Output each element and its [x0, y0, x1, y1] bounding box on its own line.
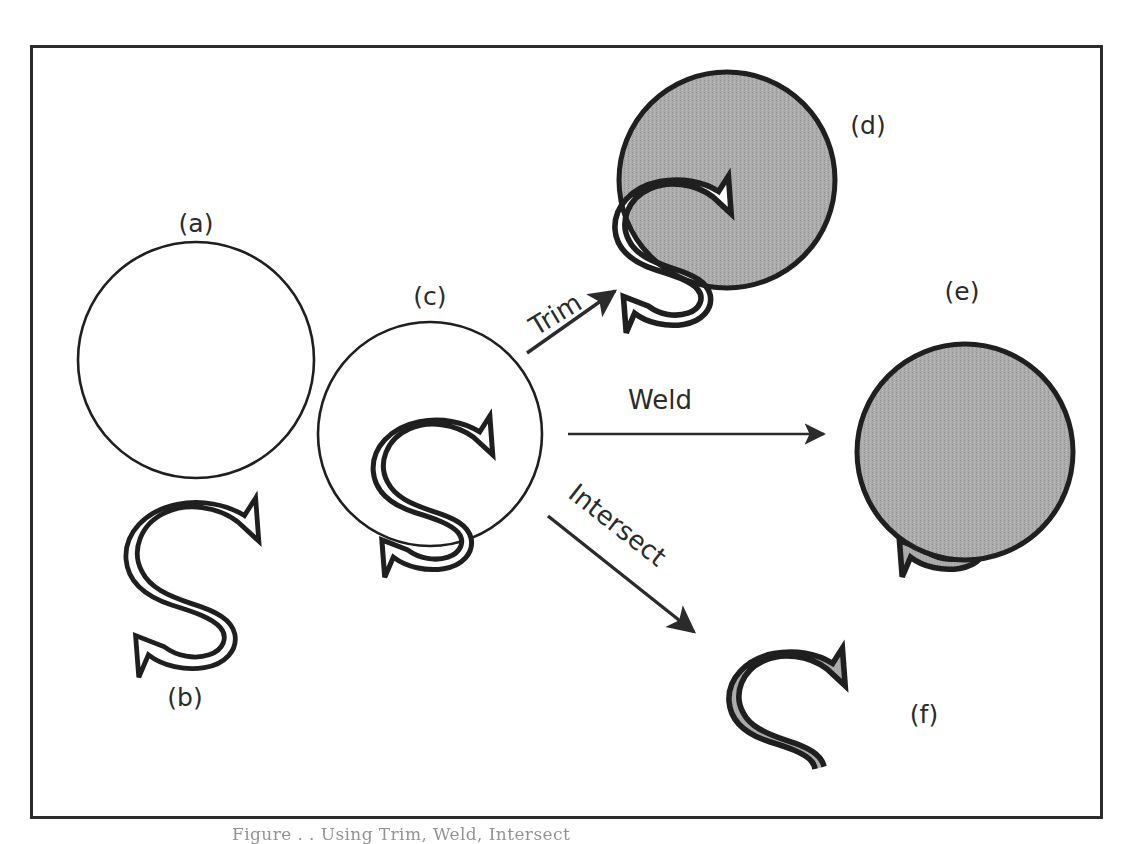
operation-trim: Trim [523, 287, 615, 353]
panel-f-intersect-result [729, 648, 845, 805]
panel-d-trim-result [615, 72, 835, 333]
operation-intersect: Intersect [548, 478, 694, 632]
panel-e-weld-result [857, 344, 1073, 577]
panel-label-f: (f) [910, 700, 938, 729]
panel-c-circle-and-s [318, 322, 542, 577]
boolean-operations-figure: (a) (b) (c) (d [0, 0, 1129, 844]
panel-a-circle [78, 242, 314, 478]
panel-label-a: (a) [179, 209, 214, 238]
panel-label-e: (e) [945, 277, 980, 306]
panel-label-b: (b) [167, 683, 202, 712]
panel-b-letter-s [126, 498, 259, 677]
operation-weld: Weld [568, 385, 824, 434]
figure-caption: Figure . . Using Trim, Weld, Intersect [232, 826, 892, 844]
weld-label: Weld [628, 385, 692, 415]
panel-label-d: (d) [850, 111, 885, 140]
panel-label-c: (c) [413, 282, 446, 311]
intersect-label: Intersect [563, 478, 672, 572]
figure-page: (a) (b) (c) (d [0, 0, 1129, 844]
